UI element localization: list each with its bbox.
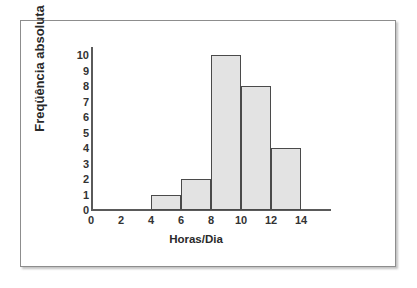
x-axis-tick-label: 10 [226,215,256,226]
y-axis-tick-label: 9 [63,66,89,77]
histogram-bar [181,179,211,210]
x-axis-tick-label: 4 [136,215,166,226]
y-axis-tick-label: 2 [63,174,89,185]
histogram-bar [271,148,301,210]
x-axis-title: Horas/Dia [91,233,301,245]
y-axis-tick-labels: 012345678910 [59,21,89,266]
y-axis-tick-label: 5 [63,128,89,139]
x-axis-tick-label: 6 [166,215,196,226]
y-axis-title: Freqüência absoluta [32,0,47,149]
x-axis-tick-label: 12 [256,215,286,226]
histogram-bar [151,195,181,211]
x-axis-tick-label: 14 [286,215,316,226]
y-axis-line [91,47,93,211]
x-axis-tick-label: 8 [196,215,226,226]
y-axis-tick-label: 4 [63,143,89,154]
x-axis-tick-label: 2 [106,215,136,226]
histogram-bar [211,55,241,210]
figure-frame: 012345678910 02468101214 Horas/Dia Freqü… [20,20,396,267]
y-axis-tick-label: 10 [63,50,89,61]
histogram-plot-area: 012345678910 02468101214 Horas/Dia Freqü… [21,21,395,266]
y-axis-tick-label: 1 [63,190,89,201]
y-axis-tick-label: 7 [63,97,89,108]
y-axis-tick-label: 3 [63,159,89,170]
x-axis-tick-label: 0 [76,215,106,226]
y-axis-tick-label: 6 [63,112,89,123]
histogram-bar [241,86,271,210]
y-axis-tick-label: 8 [63,81,89,92]
